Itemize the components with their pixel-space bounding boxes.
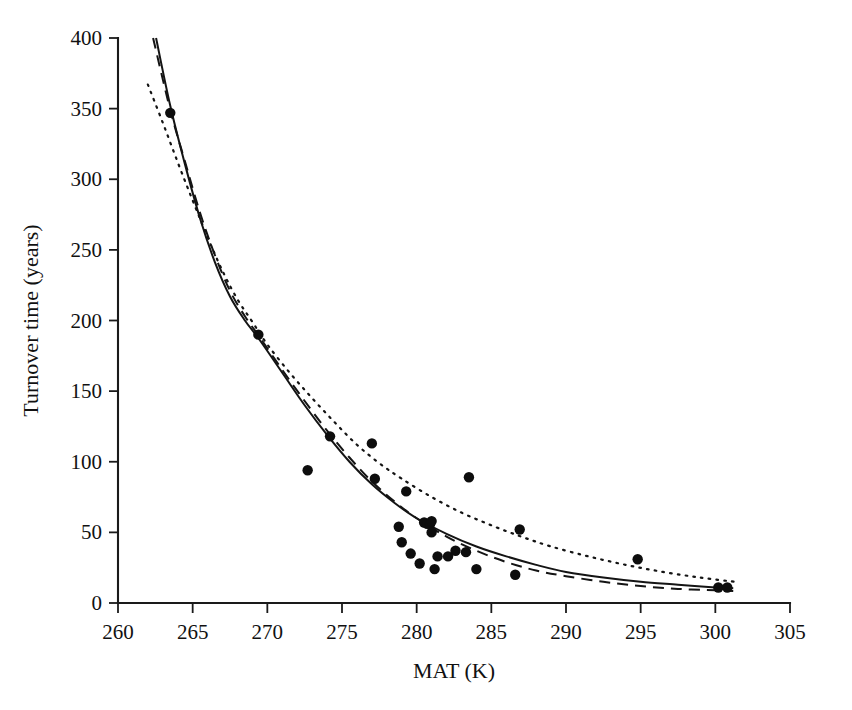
data-point bbox=[426, 527, 436, 537]
data-point bbox=[432, 551, 442, 561]
data-point bbox=[464, 472, 474, 482]
y-tick-label-200: 200 bbox=[71, 309, 103, 333]
fit-curves-group bbox=[148, 38, 735, 591]
data-point bbox=[414, 558, 424, 568]
data-point bbox=[165, 108, 175, 118]
y-tick-label-50: 50 bbox=[81, 520, 102, 544]
x-tick-label-265: 265 bbox=[177, 620, 209, 644]
curve-dotted-fit bbox=[148, 85, 735, 582]
data-point bbox=[510, 570, 520, 580]
data-point bbox=[429, 564, 439, 574]
data-point bbox=[397, 537, 407, 547]
x-tick-label-305: 305 bbox=[774, 620, 806, 644]
axes-group bbox=[118, 38, 790, 603]
data-point bbox=[471, 564, 481, 574]
y-tick-label-100: 100 bbox=[71, 450, 103, 474]
data-point bbox=[370, 474, 380, 484]
data-point bbox=[367, 438, 377, 448]
x-tick-label-280: 280 bbox=[401, 620, 433, 644]
data-point bbox=[253, 329, 263, 339]
y-axis-title: Turnover time (years) bbox=[18, 224, 43, 416]
y-tick-label-0: 0 bbox=[92, 591, 103, 615]
data-point bbox=[713, 582, 723, 592]
data-point bbox=[394, 522, 404, 532]
data-point bbox=[461, 547, 471, 557]
data-point bbox=[401, 486, 411, 496]
data-point bbox=[426, 516, 436, 526]
figure-container: 0501001502002503003504002602652702752802… bbox=[0, 0, 852, 710]
y-tick-label-400: 400 bbox=[71, 26, 103, 50]
data-point bbox=[325, 431, 335, 441]
x-tick-label-275: 275 bbox=[326, 620, 358, 644]
data-point bbox=[450, 546, 460, 556]
data-point bbox=[405, 548, 415, 558]
y-tick-label-300: 300 bbox=[71, 167, 103, 191]
x-tick-label-295: 295 bbox=[625, 620, 657, 644]
y-tick-label-250: 250 bbox=[71, 238, 103, 262]
x-tick-label-260: 260 bbox=[102, 620, 134, 644]
y-tick-label-350: 350 bbox=[71, 97, 103, 121]
x-tick-label-270: 270 bbox=[252, 620, 284, 644]
y-tick-label-150: 150 bbox=[71, 379, 103, 403]
x-axis-title: MAT (K) bbox=[413, 658, 495, 683]
data-point bbox=[515, 524, 525, 534]
x-tick-label-300: 300 bbox=[700, 620, 732, 644]
data-points-group bbox=[165, 108, 732, 593]
x-tick-label-285: 285 bbox=[476, 620, 508, 644]
ticks-group bbox=[109, 38, 790, 613]
data-point bbox=[632, 554, 642, 564]
x-tick-label-290: 290 bbox=[550, 620, 582, 644]
data-point bbox=[302, 465, 312, 475]
data-point bbox=[722, 582, 732, 592]
scatter-plot: 0501001502002503003504002602652702752802… bbox=[0, 0, 852, 710]
